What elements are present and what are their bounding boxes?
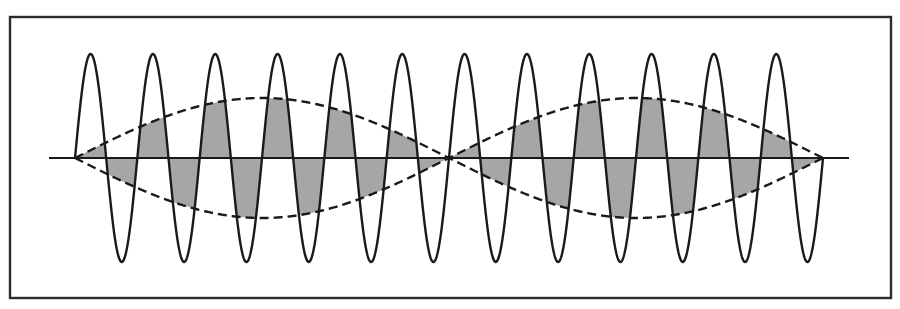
shaded-region-upper — [761, 129, 792, 158]
shaded-region-lower — [730, 158, 761, 199]
shaded-region-lower — [106, 158, 137, 187]
am-wave-diagram — [0, 0, 900, 309]
shaded-region-lower — [480, 158, 511, 187]
shaded-region-upper — [137, 117, 168, 158]
shaded-region-upper — [387, 129, 418, 158]
shaded-region-lower — [356, 158, 387, 199]
shaded-region-upper — [511, 117, 542, 158]
